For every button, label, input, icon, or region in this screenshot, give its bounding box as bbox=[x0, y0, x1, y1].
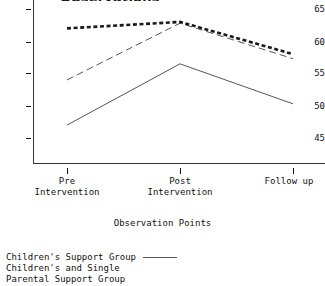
legend-item-parental-support-group: Parental Support Group bbox=[6, 274, 325, 285]
legend-label-1: Children's Support Group bbox=[6, 252, 136, 263]
legend-item-childrens-and-single: Children's and Single bbox=[6, 263, 325, 274]
series-line-solid bbox=[67, 64, 293, 125]
legend-label-3: Parental Support Group bbox=[6, 274, 125, 285]
x-tick-label-followup: Follow up bbox=[265, 176, 314, 187]
x-tick-label-pre-line1: Pre bbox=[59, 176, 75, 186]
x-tick-mark-followup bbox=[293, 168, 294, 174]
y-tick-mark-60 bbox=[26, 42, 31, 43]
plot-svg bbox=[33, 0, 325, 170]
x-tick-label-post-line1: Post bbox=[169, 176, 191, 186]
x-tick-mark-pre bbox=[67, 168, 68, 174]
x-tick-label-pre: Pre Intervention bbox=[34, 176, 99, 198]
y-tick-mark-45 bbox=[26, 138, 31, 139]
x-tick-label-post-line2: Intervention bbox=[147, 187, 212, 198]
data-series-group bbox=[67, 22, 293, 125]
series-line-thick-dashed bbox=[67, 22, 293, 54]
legend-line-sample-solid bbox=[143, 257, 177, 260]
legend-label-2: Children's and Single bbox=[6, 263, 120, 274]
chart-legend: Children's Support Group Children's and … bbox=[6, 252, 325, 285]
x-tick-mark-post bbox=[180, 168, 181, 174]
plot-area bbox=[33, 0, 325, 163]
legend-item-childrens-support-group: Children's Support Group bbox=[6, 252, 325, 263]
x-axis-title: Observation Points bbox=[0, 218, 325, 228]
y-tick-mark-65 bbox=[26, 9, 31, 10]
x-tick-label-followup-line1: Follow up bbox=[265, 176, 314, 186]
series-line-dashed bbox=[67, 23, 293, 80]
x-tick-label-post: Post Intervention bbox=[147, 176, 212, 198]
y-tick-mark-50 bbox=[26, 106, 31, 107]
y-tick-mark-55 bbox=[26, 73, 31, 74]
line-chart-figure: Observations 65 60 55 50 45 Pre Inte bbox=[0, 0, 325, 286]
x-tick-label-pre-line2: Intervention bbox=[34, 187, 99, 198]
